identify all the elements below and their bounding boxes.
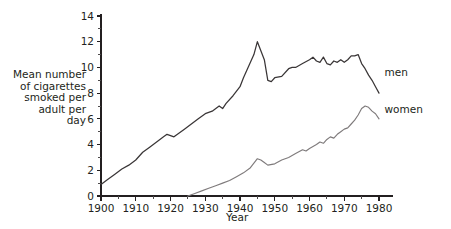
- cigarette-consumption-chart: 02468101214 1900191019201930194019501960…: [0, 0, 451, 229]
- x-axis-title: Year: [226, 211, 248, 223]
- x-tick-label: 1980: [366, 202, 393, 214]
- x-tick-label: 1910: [122, 202, 149, 214]
- x-tick-label: 1970: [331, 202, 358, 214]
- x-tick-label: 1930: [192, 202, 219, 214]
- x-tick-label: 1900: [88, 202, 115, 214]
- series-line-women: [188, 106, 379, 196]
- y-tick-label: 6: [87, 113, 94, 125]
- y-tick-label: 14: [81, 10, 95, 22]
- data-series-group: [101, 42, 379, 196]
- series-label-women: women: [384, 103, 422, 115]
- series-label-men: men: [384, 66, 407, 78]
- x-tick-label: 1920: [157, 202, 184, 214]
- y-tick-label: 0: [87, 190, 94, 202]
- x-tick-label: 1960: [296, 202, 323, 214]
- y-tick-label: 2: [87, 164, 94, 176]
- x-ticks-group: [101, 196, 379, 201]
- y-axis-title: Mean number of cigarettes smoked per adu…: [6, 69, 86, 127]
- y-tick-label: 8: [87, 87, 94, 99]
- y-tick-label: 4: [87, 138, 94, 150]
- axes-group: [101, 14, 393, 196]
- series-line-men: [101, 42, 379, 185]
- y-ticks-group: [97, 16, 102, 196]
- x-tick-label: 1950: [261, 202, 288, 214]
- y-tick-label: 12: [81, 35, 94, 47]
